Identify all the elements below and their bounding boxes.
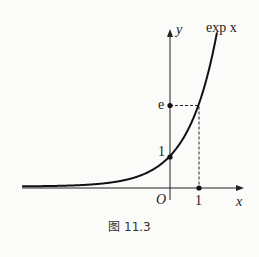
y-tick-1: 1 xyxy=(158,144,165,159)
point-1-0 xyxy=(196,185,201,190)
y-tick-e: e xyxy=(158,97,164,112)
point-0-1 xyxy=(167,154,172,159)
x-axis-arrow-icon xyxy=(236,185,244,191)
curve-label: exp x xyxy=(206,20,237,35)
figure-caption: 图 11.3 xyxy=(0,217,259,234)
x-axis-label: x xyxy=(235,194,243,209)
y-axis-arrow-icon xyxy=(167,29,173,37)
origin-label: O xyxy=(156,192,166,207)
x-tick-1: 1 xyxy=(195,193,202,208)
point-0-e xyxy=(167,103,172,108)
y-axis-label: y xyxy=(174,22,183,37)
dashed-guide xyxy=(170,106,199,189)
exp-curve xyxy=(22,32,217,186)
